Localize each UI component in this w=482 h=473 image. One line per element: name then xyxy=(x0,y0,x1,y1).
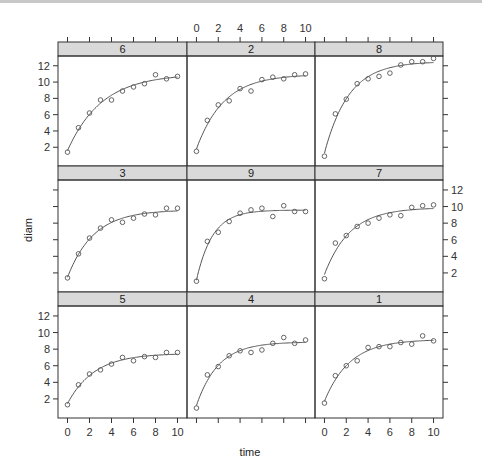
data-point xyxy=(131,358,136,363)
panel-frame xyxy=(315,180,443,292)
data-point xyxy=(420,203,425,208)
y-tick-label: 6 xyxy=(451,234,457,246)
data-point xyxy=(366,221,371,226)
data-point xyxy=(164,350,169,355)
data-point xyxy=(227,219,232,224)
fitted-curve xyxy=(68,354,178,403)
data-point xyxy=(271,214,276,219)
data-point xyxy=(420,334,425,339)
data-point xyxy=(399,213,404,218)
data-point xyxy=(194,406,199,411)
data-point xyxy=(260,206,265,211)
x-tick-label: 10 xyxy=(427,426,439,438)
fitted-curve xyxy=(197,76,306,149)
data-point xyxy=(377,216,382,221)
data-point xyxy=(249,89,254,94)
x-tick-label: 4 xyxy=(108,426,114,438)
x-tick-label: 6 xyxy=(130,426,136,438)
x-tick-label: 0 xyxy=(64,426,70,438)
data-point xyxy=(409,59,414,64)
data-point xyxy=(303,72,308,77)
fitted-curve xyxy=(325,209,434,275)
panel-frame xyxy=(315,306,443,418)
x-tick-label: 10 xyxy=(299,22,311,34)
data-point xyxy=(98,98,103,103)
data-point xyxy=(281,203,286,208)
y-tick-label: 12 xyxy=(38,60,50,72)
panel-frame xyxy=(315,56,443,166)
y-tick-label: 4 xyxy=(451,250,457,262)
panel-frame xyxy=(58,56,187,166)
data-point xyxy=(281,335,286,340)
data-point xyxy=(153,72,158,77)
data-point xyxy=(249,350,254,355)
x-tick-label: 4 xyxy=(237,22,243,34)
data-point xyxy=(120,220,125,225)
panel-frame xyxy=(58,180,187,292)
data-point xyxy=(377,74,382,79)
y-tick-label: 2 xyxy=(44,141,50,153)
strip-label: 2 xyxy=(248,43,254,55)
data-point xyxy=(260,348,265,353)
data-point xyxy=(216,103,221,108)
data-point xyxy=(175,206,180,211)
data-point xyxy=(153,355,158,360)
data-point xyxy=(333,112,338,117)
strip-label: 5 xyxy=(119,293,125,305)
data-point xyxy=(431,56,436,61)
x-tick-label: 6 xyxy=(387,426,393,438)
fitted-curve xyxy=(325,340,434,401)
data-point xyxy=(175,74,180,79)
y-tick-label: 10 xyxy=(38,327,50,339)
data-point xyxy=(194,149,199,154)
x-tick-label: 2 xyxy=(215,22,221,34)
data-point xyxy=(409,205,414,210)
trellis-chart: 6283975410246810024681002468102468101224… xyxy=(0,0,482,473)
data-point xyxy=(431,203,436,208)
y-axis-title: diam xyxy=(22,218,34,242)
data-point xyxy=(303,338,308,343)
data-point xyxy=(333,241,338,246)
data-point xyxy=(292,341,297,346)
data-point xyxy=(322,154,327,159)
data-point xyxy=(109,218,114,223)
x-tick-label: 2 xyxy=(343,426,349,438)
y-tick-label: 4 xyxy=(44,376,50,388)
y-tick-label: 10 xyxy=(38,76,50,88)
data-point xyxy=(388,344,393,349)
x-tick-label: 2 xyxy=(86,426,92,438)
data-point xyxy=(366,345,371,350)
strip-label: 3 xyxy=(119,167,125,179)
data-point xyxy=(227,99,232,104)
data-point xyxy=(120,355,125,360)
data-point xyxy=(355,358,360,363)
panel-frame xyxy=(187,180,315,292)
strip-label: 4 xyxy=(248,293,254,305)
panel-frame xyxy=(187,306,315,418)
data-point xyxy=(409,342,414,347)
data-point xyxy=(303,209,308,214)
y-tick-label: 2 xyxy=(44,393,50,405)
data-point xyxy=(131,216,136,221)
fitted-curve xyxy=(68,77,178,151)
y-tick-label: 2 xyxy=(451,267,457,279)
x-tick-label: 4 xyxy=(365,426,371,438)
strip-label: 8 xyxy=(376,43,382,55)
x-tick-label: 0 xyxy=(321,426,327,438)
data-point xyxy=(322,401,327,406)
data-point xyxy=(109,98,114,103)
data-point xyxy=(388,71,393,76)
data-point xyxy=(164,206,169,211)
x-tick-label: 0 xyxy=(193,22,199,34)
x-axis-title: time xyxy=(240,446,261,458)
fitted-curve xyxy=(197,342,306,405)
fitted-curve xyxy=(325,63,434,154)
fitted-curve xyxy=(68,211,178,277)
strip-label: 1 xyxy=(376,293,382,305)
y-tick-label: 6 xyxy=(44,109,50,121)
y-tick-label: 8 xyxy=(44,92,50,104)
strip-label: 7 xyxy=(376,167,382,179)
data-point xyxy=(388,213,393,218)
data-point xyxy=(216,230,221,235)
y-tick-label: 8 xyxy=(44,343,50,355)
